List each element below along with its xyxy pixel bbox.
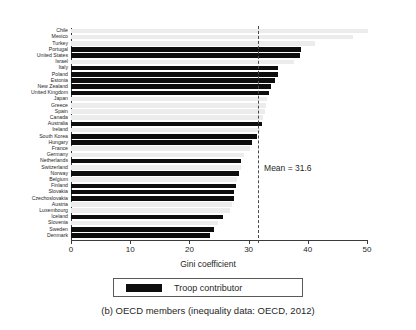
bar-israel <box>71 60 294 65</box>
chart-legend: Troop contributor <box>113 278 303 297</box>
x-axis-tick-label: 50 <box>363 245 372 254</box>
mean-reference-line <box>258 26 259 243</box>
bar-australia <box>71 122 262 127</box>
plot-area: ChileMexicoTurkeyPortugalUnited StatesIs… <box>71 28 367 239</box>
x-axis-tick <box>189 240 190 244</box>
x-axis-tick-label: 40 <box>303 245 312 254</box>
bar-norway <box>71 171 239 176</box>
x-axis-tick <box>367 240 368 244</box>
x-axis-tick-label: 0 <box>69 245 73 254</box>
bar-belgium <box>71 177 237 182</box>
mean-annotation-label: Mean = 31.6 <box>264 163 312 173</box>
x-axis-tick <box>71 240 72 244</box>
bar-slovakia <box>71 190 234 195</box>
x-axis-tick <box>249 240 250 244</box>
bar-denmark <box>71 233 210 238</box>
bar-sweden <box>71 227 214 232</box>
bar-category-label: Denmark <box>47 233 68 239</box>
troop-contributor-swatch <box>126 284 162 292</box>
x-axis-tick-label: 30 <box>244 245 253 254</box>
x-axis-title: Gini coefficient <box>0 259 416 269</box>
x-axis-tick <box>308 240 309 244</box>
bar-south-korea <box>71 134 257 139</box>
bar-ireland <box>71 128 260 133</box>
bar-spain <box>71 109 265 114</box>
bar-canada <box>71 115 263 120</box>
bar-czechoslovakia <box>71 196 234 201</box>
bar-japan <box>71 97 267 102</box>
bar-italy <box>71 66 278 71</box>
bar-portugal <box>71 47 301 52</box>
figure-oecd-gini-bar-chart: ChileMexicoTurkeyPortugalUnited StatesIs… <box>0 0 416 330</box>
figure-caption: (b) OECD members (inequality data: OECD,… <box>0 305 416 316</box>
bar-germany <box>71 153 244 158</box>
bar-hungary <box>71 140 252 145</box>
bar-switzerland <box>71 165 241 170</box>
bar-estonia <box>71 78 275 83</box>
bar-luxembourg <box>71 208 230 213</box>
bar-netherlands <box>71 159 241 164</box>
x-axis-line <box>71 240 368 241</box>
bar-united-states <box>71 53 300 58</box>
bar-turkey <box>71 41 315 46</box>
bar-row: Denmark <box>71 233 367 239</box>
bar-france <box>71 146 250 151</box>
x-axis-tick-label: 10 <box>126 245 135 254</box>
bar-iceland <box>71 215 223 220</box>
bar-mexico <box>71 35 353 40</box>
x-axis-tick <box>130 240 131 244</box>
bar-austria <box>71 202 232 207</box>
legend-label-troop-contributor: Troop contributor <box>174 283 242 293</box>
bar-chile <box>71 29 368 34</box>
bar-finland <box>71 184 236 189</box>
bar-poland <box>71 72 278 77</box>
x-axis-tick-label: 20 <box>185 245 194 254</box>
bar-slovenia <box>71 221 218 226</box>
bar-greece <box>71 103 266 108</box>
bar-united-kingdom <box>71 91 269 96</box>
bar-new-zealand <box>71 84 271 89</box>
